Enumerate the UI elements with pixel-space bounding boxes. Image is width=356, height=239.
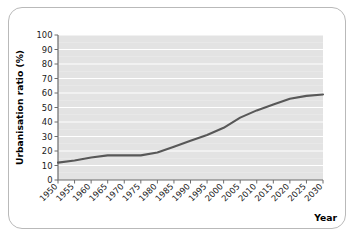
x-tick-label: 1990: [170, 181, 192, 203]
x-tick-label: 1995: [186, 181, 208, 203]
y-axis-tick-labels: 0102030405060708090100: [37, 30, 53, 185]
x-tick-label: 1985: [153, 181, 175, 203]
y-tick-label: 50: [42, 103, 53, 113]
y-tick-label: 30: [42, 132, 53, 142]
x-tick-label: 1965: [87, 181, 109, 203]
x-tick-label: 1960: [70, 181, 92, 203]
y-tick-label: 80: [42, 59, 53, 69]
y-tick-label: 20: [42, 146, 53, 156]
x-tick-label: 1950: [37, 181, 59, 203]
x-tick-label: 2000: [203, 181, 225, 203]
y-tick-label: 40: [42, 117, 53, 127]
x-tick-label: 1955: [54, 181, 76, 203]
y-axis-title: Urbanisation ratio (%): [14, 50, 25, 165]
x-tick-label: 2020: [269, 181, 291, 203]
x-tick-label: 1975: [120, 181, 142, 203]
y-tick-label: 70: [42, 74, 53, 84]
y-tick-label: 100: [37, 30, 53, 40]
x-tick-label: 2005: [219, 181, 241, 203]
x-axis-tick-labels: 1950195519601965197019751980198519901995…: [37, 181, 324, 203]
x-axis-title: Year: [313, 212, 337, 223]
x-tick-label: 2010: [236, 181, 258, 203]
x-tick-label: 2030: [302, 181, 324, 203]
chart-figure-frame: 0102030405060708090100 19501955196019651…: [8, 7, 346, 229]
y-tick-label: 10: [42, 161, 53, 171]
y-tick-label: 90: [42, 45, 53, 55]
y-tick-label: 60: [42, 88, 53, 98]
x-tick-label: 2025: [286, 181, 308, 203]
urbanisation-ratio-line-chart: 0102030405060708090100 19501955196019651…: [9, 8, 347, 230]
chart-plot-wrapper: 0102030405060708090100 19501955196019651…: [9, 8, 347, 230]
x-tick-label: 1980: [137, 181, 159, 203]
x-tick-label: 2015: [253, 181, 275, 203]
x-tick-label: 1970: [104, 181, 126, 203]
